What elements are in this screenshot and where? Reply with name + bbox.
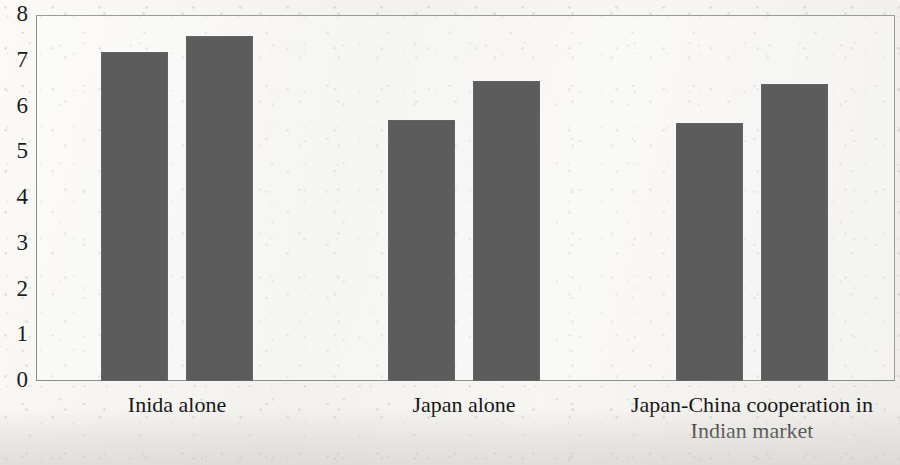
y-axis-tick-label: 3: [0, 231, 28, 254]
y-axis-tick-label: 5: [0, 139, 28, 162]
y-axis-tick-label: 8: [0, 2, 28, 25]
y-axis-tick-label: 1: [0, 322, 28, 345]
bar: [388, 120, 455, 381]
y-axis-tick-label: 7: [0, 48, 28, 71]
x-axis-category-label: Inida alone: [34, 392, 321, 418]
bar: [761, 84, 828, 381]
y-axis-tick-label: 0: [0, 368, 28, 391]
chart-page: 876543210 Inida aloneJapan aloneJapan-Ch…: [0, 0, 900, 465]
x-axis-category-label: Japan alone: [321, 392, 608, 418]
bar: [473, 81, 540, 381]
y-axis-tick-label: 2: [0, 277, 28, 300]
x-axis-category-label: Japan-China cooperation in Indian market: [609, 392, 896, 444]
bar: [101, 52, 168, 381]
bar: [186, 36, 253, 381]
y-axis-tick-label: 4: [0, 185, 28, 208]
bar: [676, 123, 743, 381]
y-axis-tick-label: 6: [0, 94, 28, 117]
